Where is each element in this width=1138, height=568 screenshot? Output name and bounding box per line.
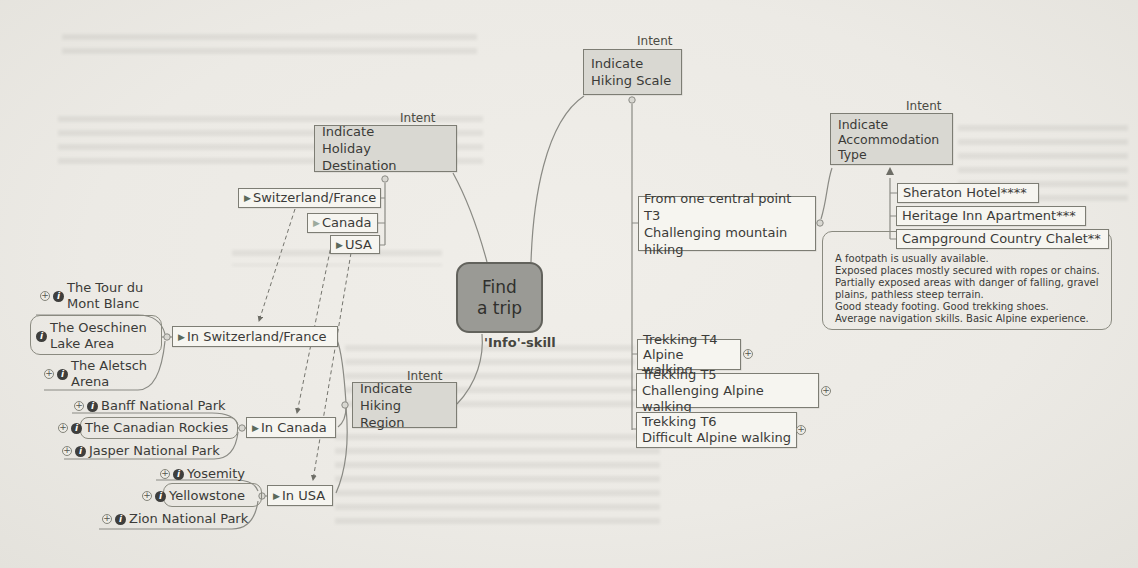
node-trekking-t5[interactable]: Trekking T5 Challenging Alpine walking (636, 373, 819, 408)
node-label: Indicate Hiking Region (360, 380, 449, 431)
leaf-aletsch-arena[interactable]: + i The Aletsch Arena (44, 358, 147, 390)
expand-icon[interactable]: + (160, 469, 170, 479)
node-trekking-t4[interactable]: Trekking T4 Alpine walking (637, 339, 741, 370)
node-label: Indicate Hiking Scale (591, 55, 671, 89)
node-canada[interactable]: ▶ Canada (307, 213, 378, 233)
scale-notes-text: A footpath is usually available. Exposed… (835, 253, 1110, 325)
leaf-tour-du-mont-blanc[interactable]: + i The Tour du Mont Blanc (40, 280, 143, 312)
expand-icon[interactable]: + (796, 425, 806, 435)
flag-icon: ▶ (252, 423, 259, 433)
info-icon[interactable]: i (57, 369, 68, 380)
node-label: Heritage Inn Apartment*** (902, 208, 1076, 224)
leaf-yosemity[interactable]: + i Yosemity (160, 466, 245, 482)
node-label: Canada (322, 215, 371, 231)
node-switzerland-france[interactable]: ▶ Switzerland/France (238, 188, 381, 208)
info-skill-label: 'Info'-skill (484, 335, 556, 350)
leaf-label: Yosemity (187, 466, 245, 482)
expand-icon[interactable]: + (821, 386, 831, 396)
flag-icon: ▶ (244, 193, 251, 203)
info-icon[interactable]: i (71, 423, 82, 434)
leaf-label: Yellowstone (169, 488, 245, 504)
intent-tag-hiking-scale: Intent (637, 34, 673, 48)
node-find-a-trip[interactable]: Find a trip (456, 262, 543, 333)
leaf-yellowstone[interactable]: + i Yellowstone (142, 488, 245, 504)
expand-icon[interactable]: + (40, 291, 50, 301)
node-indicate-hiking-region[interactable]: Indicate Hiking Region (352, 382, 457, 428)
expand-icon[interactable]: + (142, 491, 152, 501)
page-ghost-text (335, 434, 660, 526)
info-icon[interactable]: i (87, 401, 98, 412)
page-ghost-text (62, 34, 477, 60)
expand-icon[interactable]: + (74, 401, 84, 411)
note-line: Good steady footing. Good trekking shoes… (835, 301, 1110, 313)
node-label: In Canada (261, 420, 327, 436)
leaf-label: The Aletsch Arena (71, 358, 147, 390)
node-in-switzerland-france[interactable]: ▶ In Switzerland/France (172, 326, 338, 347)
flag-icon: ▶ (313, 218, 320, 228)
flag-icon: ▶ (273, 491, 280, 501)
info-icon[interactable]: i (75, 446, 86, 457)
note-line: A footpath is usually available. (835, 253, 1110, 265)
leaf-label: The Oeschinen Lake Area (50, 320, 147, 352)
node-label: Campground Country Chalet** (902, 231, 1101, 247)
note-line: Average navigation skills. Basic Alpine … (835, 313, 1110, 325)
expand-icon[interactable]: + (102, 514, 112, 524)
node-label: Trekking T5 Challenging Alpine walking (642, 367, 813, 415)
leaf-label: The Canadian Rockies (85, 420, 228, 436)
info-icon[interactable]: i (115, 514, 126, 525)
info-icon[interactable]: i (173, 469, 184, 480)
node-label: Indicate Accommodation Type (838, 117, 939, 162)
node-label: Indicate Holiday Destination (322, 123, 449, 174)
mindmap-canvas: Intent Indicate Hiking Scale Intent Indi… (0, 0, 1138, 568)
info-icon[interactable]: i (53, 291, 64, 302)
node-trekking-t6[interactable]: Trekking T6 Difficult Alpine walking (636, 412, 797, 448)
note-line: Partially exposed areas with danger of f… (835, 277, 1110, 289)
leaf-label: Zion National Park (129, 511, 248, 527)
node-usa[interactable]: ▶ USA (330, 235, 380, 254)
leaf-oeschinen-lake-area[interactable]: i The Oeschinen Lake Area (36, 320, 147, 352)
note-line: Exposed places mostly secured with ropes… (835, 265, 1110, 277)
info-icon[interactable]: i (155, 491, 166, 502)
node-label: Switzerland/France (253, 190, 376, 206)
note-line: plains, pathless steep terrain. (835, 289, 1110, 301)
node-label: In USA (282, 488, 325, 504)
node-central-point-t3[interactable]: From one central point T3 Challenging mo… (638, 196, 816, 251)
flag-icon: ▶ (336, 240, 343, 250)
node-in-canada[interactable]: ▶ In Canada (246, 417, 336, 438)
node-indicate-accommodation-type[interactable]: Indicate Accommodation Type (830, 113, 953, 165)
leaf-zion-national-park[interactable]: + i Zion National Park (102, 511, 248, 527)
expand-icon[interactable]: + (62, 446, 72, 456)
info-icon[interactable]: i (36, 331, 47, 342)
flag-icon: ▶ (178, 332, 185, 342)
node-in-usa[interactable]: ▶ In USA (267, 485, 333, 506)
node-label: USA (345, 237, 372, 253)
node-indicate-hiking-scale[interactable]: Indicate Hiking Scale (583, 49, 682, 95)
intent-tag-accommodation: Intent (906, 99, 942, 113)
node-sheraton-hotel[interactable]: Sheraton Hotel**** (897, 183, 1039, 203)
node-label: Sheraton Hotel**** (903, 185, 1027, 201)
node-label: In Switzerland/France (187, 329, 327, 345)
leaf-label: Jasper National Park (89, 443, 220, 459)
leaf-jasper-national-park[interactable]: + i Jasper National Park (62, 443, 220, 459)
leaf-canadian-rockies[interactable]: + i The Canadian Rockies (58, 420, 228, 436)
leaf-banff-national-park[interactable]: + i Banff National Park (74, 398, 226, 414)
node-label: From one central point T3 Challenging mo… (644, 190, 810, 258)
leaf-label: Banff National Park (101, 398, 226, 414)
expand-icon[interactable]: + (44, 369, 54, 379)
node-campground-country-chalet[interactable]: Campground Country Chalet** (896, 229, 1109, 249)
node-label: Trekking T6 Difficult Alpine walking (642, 414, 791, 446)
expand-icon[interactable]: + (743, 349, 753, 359)
expand-icon[interactable]: + (58, 423, 68, 433)
node-heritage-inn-apartment[interactable]: Heritage Inn Apartment*** (896, 206, 1086, 226)
node-indicate-holiday-destination[interactable]: Indicate Holiday Destination (314, 125, 457, 172)
leaf-label: The Tour du Mont Blanc (67, 280, 143, 312)
